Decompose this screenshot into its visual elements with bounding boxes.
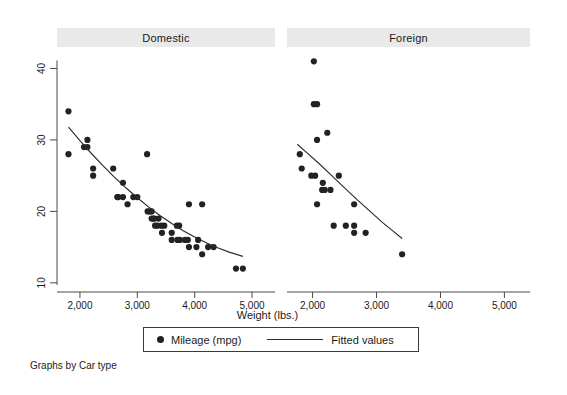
fitted-line [68, 127, 242, 256]
data-point [144, 151, 150, 157]
y-axis-tick-label: 30 [37, 134, 48, 146]
data-point [314, 137, 320, 143]
data-point [320, 180, 326, 186]
chart-figure: Domestic Foreign 102030402,0003,0004,000… [0, 0, 567, 395]
data-point [327, 187, 333, 193]
y-axis-tick-label: 10 [37, 277, 48, 289]
data-point [351, 223, 357, 229]
data-point [314, 101, 320, 107]
data-point [90, 173, 96, 179]
data-point [312, 173, 318, 179]
legend-label-fitted: Fitted values [331, 334, 393, 346]
data-point [351, 201, 357, 207]
data-point [65, 151, 71, 157]
data-point [169, 230, 175, 236]
data-point [240, 265, 246, 271]
data-point [186, 244, 192, 250]
fitted-line [297, 144, 402, 238]
data-point [324, 130, 330, 136]
data-point [322, 187, 328, 193]
legend-label-mileage: Mileage (mpg) [171, 334, 241, 346]
legend-marker-dot-icon [157, 336, 164, 343]
data-point [199, 251, 205, 257]
data-point [336, 173, 342, 179]
data-point [110, 165, 116, 171]
y-axis-tick-label: 20 [37, 205, 48, 217]
data-point [193, 244, 199, 250]
data-point [331, 223, 337, 229]
data-point [186, 201, 192, 207]
legend-entry-mileage: Mileage (mpg) [144, 334, 241, 346]
data-point [311, 58, 317, 64]
legend-entry-fitted: Fitted values [241, 334, 393, 346]
data-point [185, 237, 191, 243]
data-point [343, 223, 349, 229]
x-axis-title-text: Weight (lbs.) [237, 309, 299, 321]
data-point [84, 137, 90, 143]
data-point [297, 151, 303, 157]
data-point [363, 230, 369, 236]
data-point [299, 165, 305, 171]
figure-note: Graphs by Car type [30, 360, 117, 371]
y-axis-tick-label: 40 [37, 62, 48, 74]
data-point [161, 223, 167, 229]
data-point [159, 230, 165, 236]
data-point [314, 201, 320, 207]
chart-legend: Mileage (mpg) Fitted values [143, 327, 419, 352]
legend-line-icon [267, 339, 323, 340]
data-point [233, 265, 239, 271]
x-axis-title: Weight (lbs.) [0, 309, 567, 321]
data-point [399, 251, 405, 257]
data-point [169, 237, 175, 243]
data-point [120, 194, 126, 200]
data-point [65, 108, 71, 114]
data-point [351, 230, 357, 236]
data-point [124, 201, 130, 207]
data-point [90, 165, 96, 171]
data-point [199, 201, 205, 207]
